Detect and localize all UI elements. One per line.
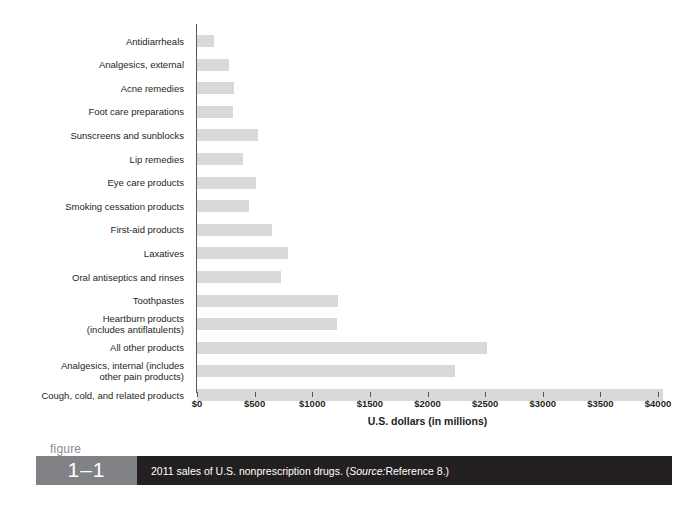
figure-number: 1–1 bbox=[36, 456, 137, 485]
bar bbox=[197, 318, 337, 330]
bar-row bbox=[197, 365, 658, 377]
x-tick-label: $1500 bbox=[357, 398, 383, 409]
bar-row bbox=[197, 82, 658, 94]
category-label: Antidiarrheals bbox=[0, 36, 192, 47]
bar bbox=[197, 177, 256, 189]
category-label: Lip remedies bbox=[0, 154, 192, 165]
category-label: Oral antiseptics and rinses bbox=[0, 272, 192, 283]
bar bbox=[197, 342, 487, 354]
x-tick-label: $4000 bbox=[645, 398, 671, 409]
bar-row bbox=[197, 271, 658, 283]
bar-row bbox=[197, 59, 658, 71]
category-label: Analgesics, external bbox=[0, 59, 192, 70]
figure-caption-block: figure 1–1 2011 sales of U.S. nonprescri… bbox=[36, 447, 672, 485]
x-tick-label: $2500 bbox=[472, 398, 498, 409]
category-label: All other products bbox=[0, 342, 192, 353]
bar bbox=[197, 153, 243, 165]
caption-bar: 2011 sales of U.S. nonprescription drugs… bbox=[137, 456, 672, 485]
bar bbox=[197, 295, 338, 307]
bar bbox=[197, 365, 455, 377]
bar-row bbox=[197, 342, 658, 354]
bar bbox=[197, 82, 234, 94]
bar-row bbox=[197, 177, 658, 189]
x-tick-mark bbox=[312, 392, 313, 397]
caption-source-word: Source: bbox=[349, 465, 385, 477]
x-tick-mark bbox=[485, 392, 486, 397]
category-axis-labels: AntidiarrhealsAnalgesics, externalAcne r… bbox=[0, 0, 192, 392]
category-label: First-aid products bbox=[0, 224, 192, 235]
x-tick-label: $500 bbox=[244, 398, 265, 409]
category-label: Foot care preparations bbox=[0, 106, 192, 117]
category-label: Smoking cessation products bbox=[0, 201, 192, 212]
category-label: Heartburn products (includes antiflatule… bbox=[0, 313, 192, 335]
figure-number-box: 1–1 bbox=[36, 456, 137, 485]
bar bbox=[197, 247, 288, 259]
bar-row bbox=[197, 200, 658, 212]
figure-word-label: figure bbox=[50, 442, 81, 456]
x-tick-mark bbox=[658, 392, 659, 397]
x-tick-label: $3500 bbox=[587, 398, 613, 409]
bar-chart: AntidiarrhealsAnalgesics, externalAcne r… bbox=[0, 0, 696, 435]
caption-text: 2011 sales of U.S. nonprescription drugs… bbox=[151, 456, 449, 485]
category-label: Laxatives bbox=[0, 248, 192, 259]
x-tick-mark bbox=[370, 392, 371, 397]
bar-row bbox=[197, 247, 658, 259]
caption-suffix: Reference 8.) bbox=[385, 465, 449, 477]
x-tick-label: $3000 bbox=[530, 398, 556, 409]
bar bbox=[197, 106, 233, 118]
x-tick-mark bbox=[255, 392, 256, 397]
x-tick-mark bbox=[600, 392, 601, 397]
bar-row bbox=[197, 318, 658, 330]
x-tick-label: $0 bbox=[192, 398, 203, 409]
figure-container: AntidiarrhealsAnalgesics, externalAcne r… bbox=[0, 0, 696, 511]
category-label: Toothpastes bbox=[0, 295, 192, 306]
bar bbox=[197, 129, 258, 141]
bar-row bbox=[197, 224, 658, 236]
bar bbox=[197, 200, 249, 212]
category-label: Sunscreens and sunblocks bbox=[0, 130, 192, 141]
category-label: Eye care products bbox=[0, 177, 192, 188]
category-label: Acne remedies bbox=[0, 83, 192, 94]
bar-row bbox=[197, 129, 658, 141]
caption-prefix: 2011 sales of U.S. nonprescription drugs… bbox=[151, 465, 349, 477]
bar-row bbox=[197, 35, 658, 47]
bar bbox=[197, 59, 229, 71]
x-tick-mark bbox=[543, 392, 544, 397]
bar-row bbox=[197, 106, 658, 118]
bar bbox=[197, 224, 272, 236]
x-tick-label: $1000 bbox=[299, 398, 325, 409]
bar bbox=[197, 35, 214, 47]
bar bbox=[197, 271, 281, 283]
category-label: Analgesics, internal (includes other pai… bbox=[0, 360, 192, 382]
x-tick-mark bbox=[428, 392, 429, 397]
x-tick-mark bbox=[197, 392, 198, 397]
plot-area bbox=[197, 30, 658, 390]
x-tick-label: $2000 bbox=[414, 398, 440, 409]
bar-row bbox=[197, 295, 658, 307]
x-axis-title: U.S. dollars (in millions) bbox=[197, 415, 658, 427]
bar-row bbox=[197, 153, 658, 165]
